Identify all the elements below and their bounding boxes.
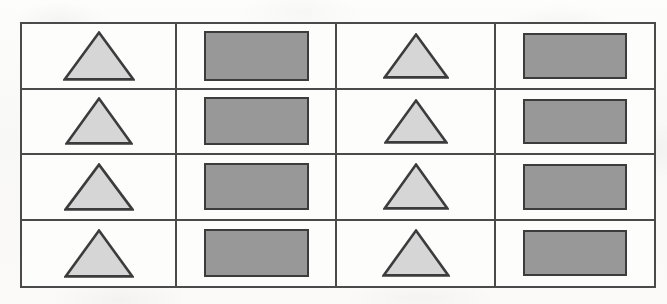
grid-cell-r4-c2[interactable] xyxy=(177,221,337,287)
grid-cell-r4-c1[interactable] xyxy=(22,221,177,287)
grid-cell-r2-c1[interactable] xyxy=(22,90,177,156)
triangle-shape xyxy=(64,163,134,211)
rectangle-shape xyxy=(523,230,627,276)
triangle-shape xyxy=(383,33,449,79)
grid-cell-r3-c2[interactable] xyxy=(177,155,337,221)
grid-cell-r1-c1[interactable] xyxy=(22,24,177,90)
shape-grid xyxy=(20,22,656,288)
triangle-shape xyxy=(63,31,135,81)
grid-cell-r4-c3[interactable] xyxy=(337,221,496,287)
rectangle-shape xyxy=(204,31,309,81)
grid-cell-r1-c3[interactable] xyxy=(337,24,496,90)
triangle-shape xyxy=(65,97,133,145)
grid-cell-r2-c4[interactable] xyxy=(496,90,654,156)
rectangle-shape xyxy=(204,163,309,210)
grid-cell-r4-c4[interactable] xyxy=(496,221,654,287)
grid-cell-r3-c4[interactable] xyxy=(496,155,654,221)
triangle-shape xyxy=(382,229,450,277)
rectangle-shape xyxy=(523,33,627,79)
grid-cell-r2-c3[interactable] xyxy=(337,90,496,156)
grid-cell-r3-c1[interactable] xyxy=(22,155,177,221)
triangle-shape xyxy=(383,163,449,210)
rectangle-shape xyxy=(204,97,309,145)
grid-cell-r1-c2[interactable] xyxy=(177,24,337,90)
rectangle-shape xyxy=(204,229,309,277)
grid-cell-r1-c4[interactable] xyxy=(496,24,654,90)
rectangle-shape xyxy=(523,164,627,210)
grid-cell-r2-c2[interactable] xyxy=(177,90,337,156)
triangle-shape xyxy=(384,99,448,144)
rectangle-shape xyxy=(523,99,627,144)
grid-cell-r3-c3[interactable] xyxy=(337,155,496,221)
triangle-shape xyxy=(64,229,134,278)
